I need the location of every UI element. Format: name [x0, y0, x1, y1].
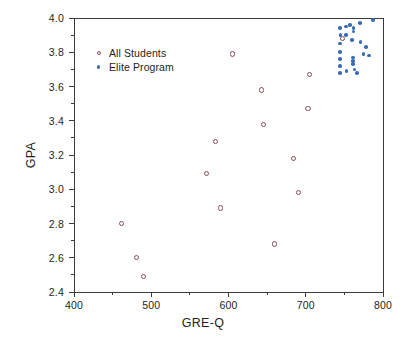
x-tick-minor: [112, 292, 113, 295]
x-tick-label: 400: [65, 299, 83, 311]
data-point-all-students: [119, 221, 124, 226]
x-tick-major: [305, 292, 306, 297]
data-point-elite-program: [355, 71, 359, 75]
data-point-elite-program: [348, 23, 352, 27]
data-point-elite-program: [338, 50, 342, 54]
data-point-elite-program: [362, 52, 366, 56]
data-point-elite-program: [338, 64, 342, 68]
y-tick-minor: [71, 172, 74, 173]
data-point-all-students: [204, 171, 209, 176]
data-point-elite-program: [338, 57, 342, 61]
data-point-elite-program: [358, 21, 362, 25]
x-axis-title: GRE-Q: [0, 316, 406, 330]
x-tick-label: 500: [142, 299, 160, 311]
x-tick-major: [151, 292, 152, 297]
x-tick-minor: [344, 292, 345, 295]
y-tick-minor: [71, 137, 74, 138]
y-tick-minor: [71, 206, 74, 207]
axis-spine-top: [74, 18, 384, 19]
x-tick-major: [383, 292, 384, 297]
x-tick-minor: [267, 292, 268, 295]
data-point-elite-program: [344, 33, 348, 37]
legend-label-elite-program: Elite Program: [109, 60, 174, 74]
data-point-elite-program: [338, 71, 342, 75]
axis-spine-right: [383, 18, 384, 293]
chart-legend: All Students Elite Program: [97, 46, 174, 74]
legend-label-all-students: All Students: [109, 46, 166, 60]
y-tick-label: 3.4: [64, 115, 79, 127]
x-tick-label: 800: [374, 299, 392, 311]
data-point-all-students: [307, 72, 312, 77]
x-tick-label: 600: [219, 299, 237, 311]
data-point-elite-program: [352, 30, 356, 34]
y-tick-label: 2.4: [64, 286, 79, 298]
legend-marker-open-circle-icon: [97, 51, 109, 55]
data-point-all-students: [141, 274, 146, 279]
x-tick-major: [228, 292, 229, 297]
y-tick-label: 4.0: [64, 12, 79, 24]
y-tick-label: 3.2: [64, 149, 79, 161]
x-tick-minor: [189, 292, 190, 295]
data-point-elite-program: [338, 26, 342, 30]
data-point-elite-program: [345, 69, 349, 73]
data-point-all-students: [261, 122, 266, 127]
y-axis-title: GPA: [24, 142, 38, 168]
data-point-all-students: [218, 205, 223, 210]
data-point-elite-program: [367, 54, 371, 58]
y-tick-label: 3.0: [64, 183, 79, 195]
data-point-all-students: [230, 51, 235, 56]
data-point-elite-program: [338, 42, 342, 46]
data-point-all-students: [213, 139, 218, 144]
legend-marker-filled-dot-icon: [97, 65, 109, 68]
data-point-elite-program: [351, 62, 355, 66]
y-tick-label: 3.6: [64, 81, 79, 93]
y-tick-label: 3.8: [64, 46, 79, 58]
data-point-all-students: [296, 190, 301, 195]
y-tick-minor: [71, 35, 74, 36]
x-tick-label: 700: [297, 299, 315, 311]
data-point-elite-program: [364, 45, 368, 49]
legend-item-all-students: All Students: [97, 46, 174, 60]
data-point-all-students: [259, 87, 264, 92]
data-point-all-students: [305, 106, 310, 111]
y-tick-label: 2.6: [64, 252, 79, 264]
data-point-all-students: [134, 255, 139, 260]
legend-item-elite-program: Elite Program: [97, 60, 174, 74]
data-point-all-students: [272, 241, 277, 246]
y-tick-minor: [71, 240, 74, 241]
y-tick-minor: [71, 103, 74, 104]
data-point-all-students: [291, 156, 296, 161]
y-tick-minor: [71, 274, 74, 275]
y-tick-label: 2.8: [64, 218, 79, 230]
scatter-chart: 400500600700800 2.42.62.83.03.23.43.63.8…: [0, 0, 406, 339]
data-point-elite-program: [350, 38, 354, 42]
data-point-elite-program: [359, 40, 363, 44]
y-tick-minor: [71, 69, 74, 70]
data-point-elite-program: [371, 18, 375, 22]
